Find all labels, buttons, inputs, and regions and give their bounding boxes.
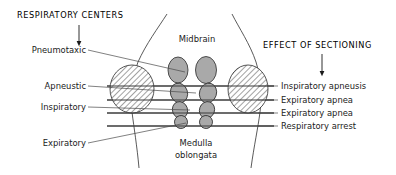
respiratory-centers-diagram: RESPIRATORY CENTERS EFFECT OF SECTIONING… bbox=[0, 0, 396, 175]
diagram-canvas: RESPIRATORY CENTERS EFFECT OF SECTIONING… bbox=[0, 0, 396, 175]
label-expiratory-apnea-1: Expiratory apnea bbox=[281, 95, 353, 105]
label-respiratory-arrest: Respiratory arrest bbox=[281, 121, 357, 131]
label-medulla-line2: oblongata bbox=[175, 150, 217, 160]
label-pneumotaxic: Pneumotaxic bbox=[32, 45, 87, 55]
label-expiratory-apnea-2: Expiratory apnea bbox=[281, 108, 353, 118]
header-effect-of-sectioning: EFFECT OF SECTIONING bbox=[263, 40, 372, 50]
pneumotaxic-nucleus-left bbox=[168, 57, 188, 83]
label-expiratory: Expiratory bbox=[43, 138, 86, 148]
header-respiratory-centers: RESPIRATORY CENTERS bbox=[17, 10, 123, 20]
right-apneustic-blob bbox=[228, 65, 268, 113]
label-inspiratory-apneusis: Inspiratory apneusis bbox=[281, 81, 366, 91]
label-medulla-line1: Medulla bbox=[180, 138, 213, 148]
right-hatched-center bbox=[228, 65, 268, 113]
nuclei-group bbox=[168, 57, 219, 130]
label-apneustic: Apneustic bbox=[45, 81, 87, 91]
pneumotaxic-nucleus-right bbox=[196, 57, 217, 84]
label-midbrain: Midbrain bbox=[179, 34, 215, 44]
label-inspiratory: Inspiratory bbox=[41, 102, 86, 112]
